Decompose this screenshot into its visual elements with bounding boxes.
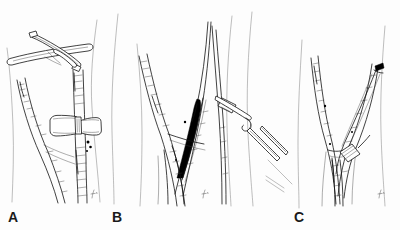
panel-a-marker-dot bbox=[86, 150, 88, 152]
figure-container: A B C bbox=[0, 0, 400, 230]
panel-a-marker-dot bbox=[87, 141, 90, 144]
panel-a-marker-dot bbox=[89, 146, 92, 149]
figure-artwork bbox=[0, 0, 400, 230]
panel-label-b: B bbox=[112, 210, 122, 224]
panel-label-c: C bbox=[294, 210, 304, 224]
panel-a-bowtie-clamp bbox=[50, 115, 101, 136]
panel-label-a: A bbox=[8, 210, 18, 224]
